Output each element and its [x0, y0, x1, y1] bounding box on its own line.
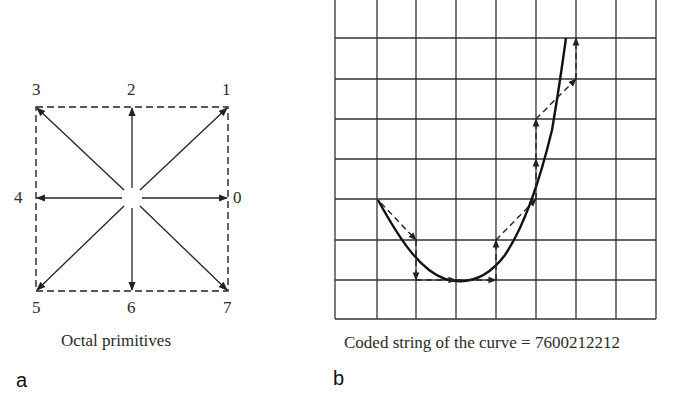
panel-b-label: b: [333, 367, 344, 390]
panel-b-caption: Coded string of the curve = 7600212212: [344, 333, 620, 353]
